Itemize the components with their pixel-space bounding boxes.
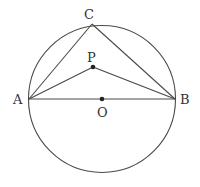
label-p: P xyxy=(87,50,96,65)
segment-pb xyxy=(93,67,175,99)
point-p-dot xyxy=(91,65,96,70)
segment-cb xyxy=(92,24,175,99)
point-o-dot xyxy=(100,97,105,102)
geometry-diagram: C A B P O xyxy=(0,0,200,187)
label-a: A xyxy=(12,92,23,107)
segment-ap xyxy=(29,67,93,99)
label-c: C xyxy=(84,7,94,22)
label-b: B xyxy=(180,92,190,107)
label-o: O xyxy=(97,105,108,120)
